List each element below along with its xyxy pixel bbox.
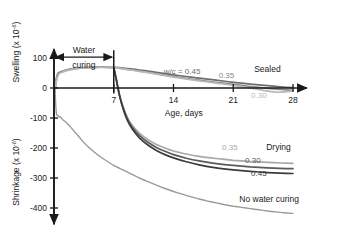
- water-curing-label-line2: curing: [72, 60, 95, 70]
- y-axis-title-swelling: Swelling (x 10-6): [11, 21, 21, 82]
- annotation-drying-group: Drying: [266, 142, 291, 152]
- series-label-drying-wc-0.45: 0.45: [251, 169, 267, 178]
- series-label-sealed-wc-0.45: w/c = 0.45: [163, 67, 201, 76]
- y-axis-title-shrinkage: Shrinkage (x 10-6): [11, 138, 21, 206]
- chart-container: 1000-100-200-300-4007142128WatercuringSe…: [0, 0, 348, 247]
- svg-text:Swelling (x 10-6): Swelling (x 10-6): [11, 21, 21, 82]
- series-label-sealed-wc-0.35: 0.35: [219, 71, 235, 80]
- x-tick-label-7: 7: [111, 95, 116, 105]
- series-label-drying-wc-0.35: 0.35: [222, 143, 238, 152]
- x-tick-label-21: 21: [229, 95, 239, 105]
- swelling-shrinkage-chart: 1000-100-200-300-4007142128WatercuringSe…: [0, 0, 348, 247]
- y-tick-label-100: 100: [33, 53, 47, 63]
- y-tick-label--400: -400: [30, 203, 47, 213]
- curve-drying-wc-0.30: [114, 68, 293, 169]
- y-tick-label--100: -100: [30, 113, 47, 123]
- y-tick-label-0: 0: [42, 83, 47, 93]
- y-tick-label--300: -300: [30, 173, 47, 183]
- series-label-sealed-wc-0.30: 0.30: [251, 91, 267, 100]
- x-axis-title: Age, days: [165, 108, 203, 118]
- svg-text:Shrinkage (x 10-6): Shrinkage (x 10-6): [11, 138, 21, 206]
- x-tick-label-28: 28: [288, 95, 298, 105]
- annotation-no-water-curing: No water curing: [239, 194, 299, 204]
- y-tick-label--200: -200: [30, 143, 47, 153]
- annotation-sealed-group: Sealed: [254, 64, 281, 74]
- water-curing-label-line1: Water: [73, 45, 96, 55]
- series-label-drying-wc-0.30: 0.30: [245, 156, 261, 165]
- x-tick-label-14: 14: [169, 95, 179, 105]
